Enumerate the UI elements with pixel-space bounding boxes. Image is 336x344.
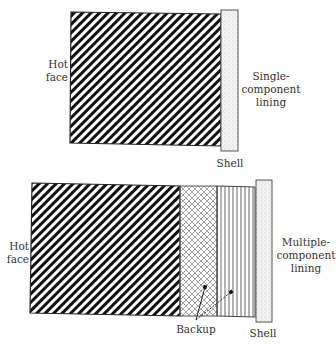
- single-shell-label: Shell: [217, 157, 245, 169]
- single-lining-label-line3: lining: [256, 96, 287, 108]
- multiple-lining-label-line3: lining: [291, 262, 322, 274]
- single-lining-label-line2: component: [241, 83, 301, 95]
- multiple-lining-label-line2: component: [276, 249, 336, 261]
- single-component-diagram: Hot face Single- component lining Shell: [46, 10, 302, 169]
- multiple-hot-face-label-line2: face: [7, 253, 29, 265]
- multiple-hot-face-layer: [30, 183, 180, 316]
- backup-label: Backup: [176, 323, 216, 335]
- multiple-component-diagram: Hot face Multiple- component lining Back…: [7, 180, 336, 339]
- refractory-lining-diagram: Hot face Single- component lining Shell …: [0, 0, 336, 344]
- single-hot-face-label-line2: face: [46, 71, 68, 83]
- multiple-hot-face-label-line1: Hot: [9, 240, 29, 252]
- multiple-lining-label-line1: Multiple-: [282, 236, 331, 248]
- multiple-shell: [256, 180, 272, 322]
- multiple-backup-layer-2: [217, 186, 255, 317]
- single-hot-face-label-line1: Hot: [48, 58, 68, 70]
- multiple-backup-layer-1: [180, 186, 217, 316]
- single-shell: [221, 10, 238, 151]
- single-lining-label-line1: Single-: [252, 70, 290, 82]
- single-hot-face-layer: [70, 12, 221, 146]
- multiple-shell-label: Shell: [250, 327, 278, 339]
